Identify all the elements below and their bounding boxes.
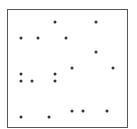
dot xyxy=(95,51,98,54)
dot xyxy=(20,37,23,40)
dot xyxy=(31,80,34,83)
dot xyxy=(20,73,23,76)
dot xyxy=(82,110,85,113)
diagram-frame xyxy=(7,9,128,128)
dot xyxy=(65,37,68,40)
dot xyxy=(71,110,74,113)
dot xyxy=(54,80,57,83)
dot xyxy=(112,67,115,70)
dot xyxy=(48,116,51,119)
dot xyxy=(20,116,23,119)
dot xyxy=(20,80,23,83)
dot xyxy=(54,21,57,24)
dot xyxy=(37,37,40,40)
dot xyxy=(106,110,109,113)
dot xyxy=(95,21,98,24)
dot xyxy=(71,67,74,70)
dot xyxy=(54,73,57,76)
